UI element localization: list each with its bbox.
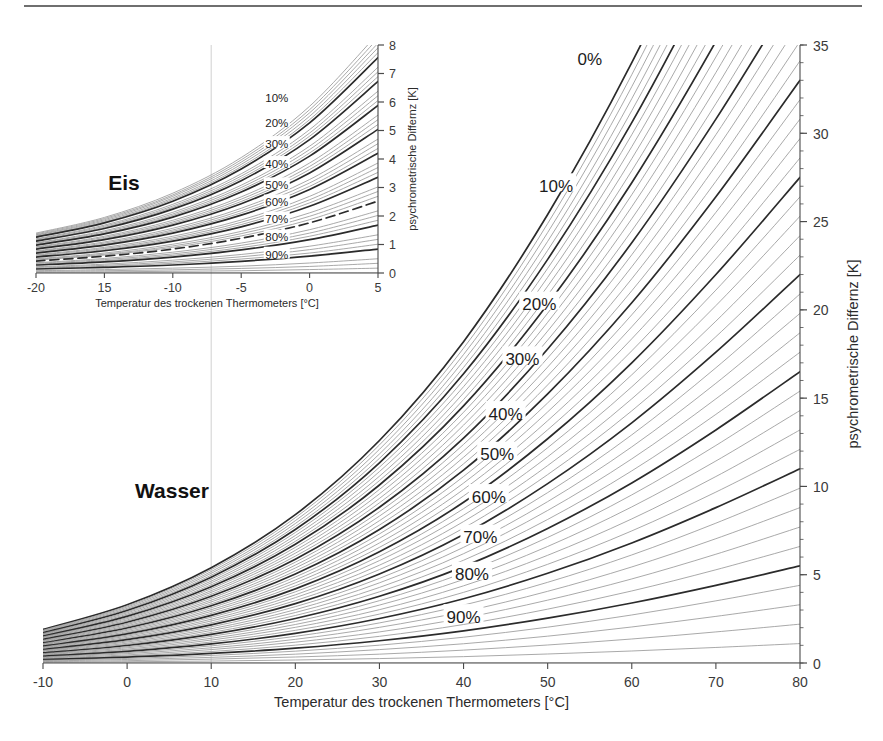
rh-label-10: 10% — [539, 177, 573, 196]
rh-curve-24 — [43, 0, 800, 638]
rh-label-60: 60% — [265, 196, 288, 208]
rh-label-90: 90% — [265, 249, 288, 261]
y-tick-label: 0 — [389, 267, 396, 281]
rh-curve-8 — [43, 0, 800, 632]
y-tick-label: 30 — [813, 126, 829, 142]
rh-curve-58 — [43, 255, 800, 649]
rh-curve-82 — [43, 488, 800, 657]
plot-area — [43, 0, 800, 663]
rh-label-10: 10% — [265, 92, 288, 104]
y-tick-label: 4 — [389, 153, 396, 167]
rh-label-0: 0% — [577, 50, 602, 69]
rh-label-50: 50% — [265, 179, 288, 191]
y-tick-label: 25 — [813, 214, 829, 230]
rh-curve-2 — [43, 0, 800, 630]
x-tick-label: 70 — [708, 674, 724, 690]
x-tick-label: 0 — [306, 281, 313, 295]
rh-label-70: 70% — [265, 213, 288, 225]
x-tick-label: -20 — [27, 281, 45, 295]
y-tick-label: 0 — [813, 656, 821, 672]
x-tick-label: -10 — [33, 674, 53, 690]
y-tick-label: 15 — [813, 391, 829, 407]
region-label-wasser: Wasser — [135, 479, 209, 502]
rh-label-90: 90% — [447, 608, 481, 627]
psychrometric-chart-figure: 0%10%20%30%40%50%60%70%80%90%-1001020304… — [0, 0, 883, 741]
y-axis-title: psychrometrische Differnz [K] — [845, 259, 861, 448]
rh-label-20: 20% — [522, 295, 556, 314]
x-tick-label: 5 — [375, 281, 382, 295]
plot-area — [36, 34, 378, 273]
x-tick-label: 30 — [372, 674, 388, 690]
rh-label-20: 20% — [265, 117, 288, 129]
y-tick-label: 5 — [389, 124, 396, 138]
rh-curve-36 — [43, 41, 800, 641]
y-tick-label: 5 — [813, 567, 821, 583]
rh-curve-34 — [43, 22, 800, 641]
rh-label-30: 30% — [505, 350, 539, 369]
rh-curve-44 — [43, 119, 800, 644]
y-tick-label: 10 — [813, 479, 829, 495]
y-axis-title: psychrometrische Differnz [K] — [406, 87, 418, 230]
y-tick-label: 20 — [813, 302, 829, 318]
rh-curve-2 — [36, 38, 378, 234]
x-tick-label: 40 — [456, 674, 472, 690]
rh-label-40: 40% — [265, 158, 288, 170]
rh-label-30: 30% — [265, 138, 288, 150]
x-tick-label: 20 — [288, 674, 304, 690]
x-tick-label: 15 — [97, 281, 111, 295]
rh-curve-48 — [43, 158, 800, 646]
rh-curve-28 — [43, 0, 800, 639]
rh-curve-18 — [43, 0, 800, 635]
y-tick-label: 6 — [389, 96, 396, 110]
y-tick-label: 8 — [389, 39, 396, 53]
rh-label-80: 80% — [455, 565, 489, 584]
main-water-chart: 0%10%20%30%40%50%60%70%80%90%-1001020304… — [33, 0, 861, 710]
x-tick-label: 60 — [624, 674, 640, 690]
rh-curve-22 — [43, 0, 800, 637]
rh-curve-10 — [43, 0, 800, 633]
rh-curve-36 — [36, 120, 378, 248]
rh-label-50: 50% — [480, 445, 514, 464]
rh-label-80: 80% — [265, 231, 288, 243]
rh-curve-20 — [43, 0, 800, 636]
x-tick-label: 10 — [203, 674, 219, 690]
x-tick-label: 50 — [540, 674, 556, 690]
rh-label-60: 60% — [472, 488, 506, 507]
rh-curve-12 — [43, 0, 800, 634]
x-tick-label: 80 — [792, 674, 808, 690]
chart-canvas: 0%10%20%30%40%50%60%70%80%90%-1001020304… — [0, 0, 883, 741]
rh-label-40: 40% — [489, 405, 523, 424]
y-tick-label: 7 — [389, 67, 396, 81]
rh-curve-6 — [43, 0, 800, 631]
x-tick-label: 0 — [123, 674, 131, 690]
region-label-eis: Eis — [108, 171, 140, 194]
x-axis-title: Temperatur des trockenen Thermometers [°… — [95, 297, 319, 309]
x-tick-label: -5 — [236, 281, 247, 295]
x-axis-title: Temperatur des trockenen Thermometers [°… — [274, 694, 569, 710]
rh-curve-94 — [43, 605, 800, 661]
rh-curve-62 — [43, 294, 800, 650]
rh-curve-42 — [43, 100, 800, 644]
rh-curve-24 — [36, 91, 378, 243]
rh-curve-30 — [43, 0, 800, 640]
rh-curve-26 — [43, 0, 800, 638]
y-tick-label: 1 — [389, 238, 396, 252]
rh-curve-4 — [43, 0, 800, 631]
rh-curve-50 — [43, 177, 800, 646]
y-tick-label: 3 — [389, 181, 396, 195]
x-tick-label: -10 — [164, 281, 182, 295]
rh-label-70: 70% — [463, 528, 497, 547]
y-tick-label: 2 — [389, 210, 396, 224]
y-tick-label: 35 — [813, 38, 829, 54]
inset-ice-chart: 10%20%30%40%50%60%70%80%90%-2015-10-505T… — [27, 34, 418, 309]
